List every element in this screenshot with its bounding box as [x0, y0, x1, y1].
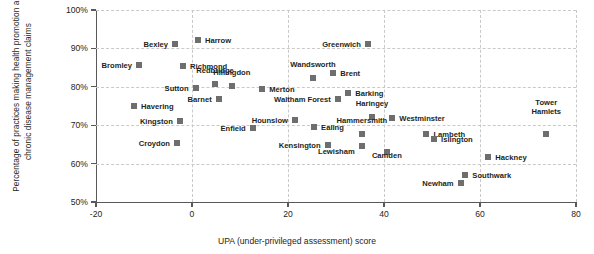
data-point-label: Brent	[340, 68, 360, 77]
data-point-label: Barking	[355, 88, 383, 97]
x-axis-line	[96, 202, 576, 203]
y-tick-label: 70%	[71, 121, 88, 130]
x-tick-mark	[383, 202, 384, 207]
data-point-marker	[389, 115, 395, 121]
data-point-marker	[259, 86, 265, 92]
data-point-marker	[543, 131, 549, 137]
data-point-marker	[310, 75, 316, 81]
data-point-label: Kingston	[140, 116, 173, 125]
data-point-label: Camden	[372, 151, 402, 160]
data-point-label: Merton	[269, 85, 294, 94]
data-point-marker	[485, 154, 491, 160]
data-point-marker	[458, 180, 464, 186]
y-tick-mark	[91, 125, 96, 126]
x-tick-mark	[191, 202, 192, 207]
data-point-marker	[212, 81, 218, 87]
gridline-horizontal	[96, 164, 576, 166]
data-point-label: Wandsworth	[290, 60, 335, 69]
data-point-marker	[180, 63, 186, 69]
x-tick-mark	[287, 202, 288, 207]
data-point-label: Barnet	[188, 95, 212, 104]
data-point-label: Waltham Forest	[274, 95, 331, 104]
x-tick-label: 80	[571, 210, 581, 219]
data-point-label: Hackney	[495, 153, 526, 162]
y-tick-mark	[91, 9, 96, 10]
data-point-label: Havering	[141, 102, 174, 111]
x-tick-label: 0	[190, 210, 195, 219]
data-point-label: Newham	[422, 178, 453, 187]
data-point-marker	[365, 41, 371, 47]
data-point-marker	[131, 103, 137, 109]
data-point-marker	[136, 62, 142, 68]
data-point-label: Haringey	[356, 99, 389, 108]
y-tick-mark	[91, 48, 96, 49]
data-point-marker	[345, 90, 351, 96]
data-point-marker	[250, 125, 256, 131]
data-point-marker	[359, 131, 365, 137]
data-point-label: Kensington	[279, 141, 321, 150]
data-point-label: Sutton	[165, 83, 189, 92]
data-point-marker	[292, 117, 298, 123]
data-point-label: Hillingdon	[213, 68, 250, 77]
data-point-marker	[423, 131, 429, 137]
data-point-label: Lewisham	[318, 146, 355, 155]
x-tick-mark	[479, 202, 480, 207]
data-point-label: Bexley	[144, 39, 169, 48]
x-tick-label: 40	[379, 210, 389, 219]
data-point-marker	[431, 136, 437, 142]
data-point-label: Westminster	[399, 113, 444, 122]
data-point-label: Islington	[441, 135, 473, 144]
gridline-vertical	[576, 10, 578, 202]
data-point-marker	[229, 83, 235, 89]
data-point-label: Harrow	[205, 35, 231, 44]
data-point-label: Hammersmith	[337, 116, 388, 125]
gridline-horizontal	[96, 48, 576, 50]
data-point-marker	[216, 96, 222, 102]
y-tick-mark	[91, 86, 96, 87]
gridline-horizontal	[96, 10, 576, 12]
data-point-label: Greenwich	[322, 40, 361, 49]
x-tick-mark	[95, 202, 96, 207]
data-point-marker	[330, 70, 336, 76]
data-point-marker	[335, 96, 341, 102]
x-tick-mark	[575, 202, 576, 207]
x-axis-title: UPA (under-privileged assessment) score	[0, 236, 594, 246]
data-point-label: Southwark	[472, 171, 511, 180]
y-tick-label: 90%	[71, 44, 88, 53]
x-tick-label: -20	[90, 210, 102, 219]
data-point-label: Hounslow	[252, 115, 288, 124]
y-tick-label: 80%	[71, 83, 88, 92]
y-tick-label: 50%	[71, 198, 88, 207]
data-point-label: Enfield	[220, 123, 245, 132]
data-point-marker	[311, 124, 317, 130]
data-point-marker	[195, 37, 201, 43]
data-point-label: Bromley	[102, 60, 132, 69]
y-axis-title: Percentage of practices making health pr…	[11, 0, 34, 207]
data-point-marker	[172, 41, 178, 47]
data-point-label: Tower Hamlets	[525, 98, 567, 116]
plot-area: 50%60%70%80%90%100% -20020406080 Bromley…	[96, 10, 576, 202]
data-point-marker	[462, 172, 468, 178]
data-point-marker	[174, 140, 180, 146]
data-point-marker	[359, 143, 365, 149]
y-tick-label: 100%	[66, 6, 88, 15]
y-axis-line	[96, 10, 97, 202]
x-tick-label: 60	[475, 210, 485, 219]
y-tick-label: 60%	[71, 159, 88, 168]
data-point-marker	[177, 118, 183, 124]
gridline-vertical	[288, 10, 290, 202]
y-tick-mark	[91, 163, 96, 164]
data-point-marker	[193, 85, 199, 91]
x-tick-label: 20	[283, 210, 293, 219]
gridline-vertical	[192, 10, 194, 202]
scatter-chart: Percentage of practices making health pr…	[0, 0, 594, 254]
data-point-label: Croydon	[139, 138, 170, 147]
